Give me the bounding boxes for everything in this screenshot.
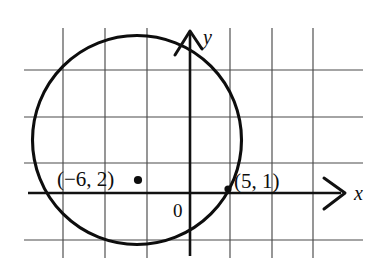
grid-horizontal-lines bbox=[24, 70, 363, 240]
y-axis-label: y bbox=[201, 26, 212, 49]
figure-canvas: (−6, 2) (5, 1) 0 y x bbox=[0, 0, 387, 270]
point-label-left: (−6, 2) bbox=[57, 167, 114, 191]
y-axis bbox=[175, 31, 202, 256]
x-axis-label: x bbox=[353, 182, 363, 204]
grid-vertical-lines bbox=[63, 28, 313, 258]
circle-shape bbox=[33, 36, 242, 245]
origin-label: 0 bbox=[173, 200, 183, 221]
point-marker-left bbox=[134, 176, 142, 184]
point-label-right: (5, 1) bbox=[234, 169, 280, 193]
coordinate-plane-svg: (−6, 2) (5, 1) 0 y x bbox=[0, 0, 387, 270]
point-marker-right bbox=[224, 185, 231, 192]
